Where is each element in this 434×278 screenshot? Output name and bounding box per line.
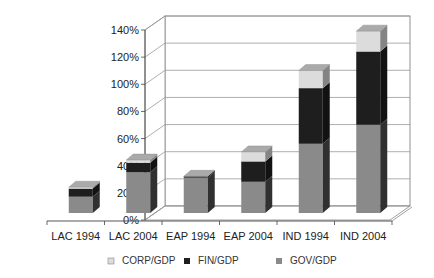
bar-segment-corp-gdp [241, 152, 265, 162]
bar-side [150, 166, 157, 213]
legend-label: FIN/GDP [198, 255, 239, 266]
bar-stack [356, 25, 387, 213]
x-tick-label: EAP 1994 [166, 230, 215, 242]
bar-stack [299, 65, 330, 214]
y-tick-label: 100% [111, 78, 139, 90]
bar-segment-corp-gdp [126, 160, 150, 163]
x-tick-label: LAC 1994 [51, 230, 100, 242]
legend-swatch [184, 258, 190, 264]
bar-segment-fin-gdp [241, 161, 265, 181]
bar-stack [126, 154, 157, 213]
bar-side [323, 138, 330, 213]
bar-segment-gov-gdp [299, 144, 323, 213]
x-tick-label: EAP 2004 [224, 230, 273, 242]
legend-label: GOV/GDP [290, 255, 337, 266]
bar-side [208, 172, 215, 213]
x-tick-label: IND 1994 [283, 230, 329, 242]
bar-segment-fin-gdp [356, 52, 380, 125]
stacked-3d-column-chart: 0%20%40%60%80%100%120%140% LAC 1994LAC 2… [0, 0, 434, 278]
legend-item: FIN/GDP [184, 255, 239, 266]
x-tick-label: LAC 2004 [109, 230, 158, 242]
legend-label: CORP/GDP [122, 255, 176, 266]
bar-side [380, 119, 387, 213]
bar-side [265, 176, 272, 213]
x-tick-label: IND 2004 [340, 230, 386, 242]
bar-segment-gov-gdp [69, 197, 93, 213]
bar-stack [241, 146, 272, 213]
bar-segment-corp-gdp [356, 31, 380, 51]
bar-side [380, 46, 387, 125]
legend-swatch [108, 258, 114, 264]
legend-item: CORP/GDP [108, 255, 176, 266]
chart-canvas: 0%20%40%60%80%100%120%140% LAC 1994LAC 2… [0, 0, 434, 278]
y-tick-label: 140% [111, 24, 139, 36]
bar-segment-fin-gdp [69, 189, 93, 197]
bar-side [323, 82, 330, 144]
bar-segment-fin-gdp [299, 88, 323, 144]
bar-segment-gov-gdp [241, 182, 265, 213]
legend-swatch [276, 258, 282, 264]
y-tick-label: 80% [117, 105, 139, 117]
bar-segment-gov-gdp [184, 178, 208, 213]
legend-item: GOV/GDP [276, 255, 337, 266]
bar-segment-gov-gdp [356, 125, 380, 213]
bar-segment-corp-gdp [299, 71, 323, 89]
bar-stack [69, 181, 100, 213]
y-tick-label: 0% [123, 214, 139, 226]
bar-segment-fin-gdp [184, 176, 208, 177]
y-tick-label: 60% [117, 133, 139, 145]
y-tick-label: 120% [111, 51, 139, 63]
bar-segment-fin-gdp [126, 163, 150, 173]
bar-segment-gov-gdp [126, 172, 150, 213]
legend: CORP/GDPFIN/GDPGOV/GDP [108, 255, 337, 266]
bar-segment-corp-gdp [69, 187, 93, 188]
bar-stack [184, 170, 215, 213]
